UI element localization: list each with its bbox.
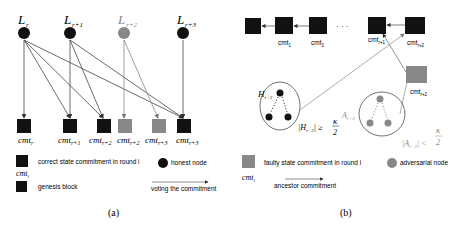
chain-block — [275, 17, 293, 34]
svg-text:faulty state commitment in rou: faulty state commitment in round i — [264, 159, 361, 167]
leader-node: L r+1 — [63, 12, 83, 39]
svg-text:κ: κ — [436, 125, 441, 135]
leader-node: L r — [17, 12, 30, 39]
svg-text:voting the commitment: voting the commitment — [151, 185, 217, 193]
ellipsis: · · · — [336, 22, 348, 31]
svg-text:cmtr+3: cmtr+3 — [145, 135, 167, 146]
caption-b: (b) — [340, 207, 352, 219]
svg-text:cmtr+1: cmtr+1 — [58, 135, 80, 146]
svg-text:L: L — [17, 12, 25, 27]
leader-node: L r+2 — [117, 12, 137, 39]
svg-text:|Hr+2| ≥: |Hr+2| ≥ — [298, 123, 323, 133]
chain-block — [309, 17, 327, 34]
svg-text:cmtr+1: cmtr+1 — [368, 36, 386, 45]
chain-block — [405, 17, 425, 34]
legend-b: faulty state commitment in round i cmti … — [242, 155, 448, 189]
svg-text:correct state commitment in ro: correct state commitment in round i — [38, 158, 140, 165]
svg-text:adversarial node: adversarial node — [400, 159, 448, 166]
svg-text:ancestor commitment: ancestor commitment — [274, 182, 336, 189]
faulty-block-label: cmtr+2 — [410, 88, 428, 97]
commitment-blocks — [17, 119, 191, 133]
svg-text:2: 2 — [333, 128, 337, 137]
commitment-labels: cmtr cmtr+1 cmtr+2 cmtr+2 cmtr+3 cmtr+3 — [18, 135, 198, 146]
caption-a: (a) — [108, 207, 119, 219]
genesis-block — [245, 18, 261, 34]
svg-text:r: r — [26, 21, 29, 29]
panel-b: · · · cmt1 cmt2 cmtr+1 cmtr+2 cmtr+2 Hr+… — [242, 17, 448, 219]
faulty-block — [406, 66, 427, 83]
chain-labels: cmt1 cmt2 cmtr+1 cmtr+2 — [278, 36, 425, 48]
svg-text:genesis block: genesis block — [38, 183, 78, 191]
chain-block — [368, 17, 386, 34]
svg-text:cmtr+2: cmtr+2 — [117, 135, 139, 146]
svg-text:cmtr+3: cmtr+3 — [176, 135, 198, 146]
svg-text:2: 2 — [436, 138, 440, 147]
svg-text:L: L — [176, 12, 184, 27]
svg-text:cmt2: cmt2 — [311, 39, 324, 48]
svg-text:cmt1: cmt1 — [278, 39, 291, 48]
svg-text:Ar+2: Ar+2 — [341, 111, 355, 121]
panel-a: L r L r+1 L r+2 L r+3 cmtr — [16, 12, 217, 219]
svg-text:honest node: honest node — [171, 159, 207, 166]
svg-text:cmtr+2: cmtr+2 — [89, 135, 111, 146]
adversary-set: Ar+2 |Ar+2| < κ 2 — [341, 92, 442, 149]
svg-text:|Ar+2| <: |Ar+2| < — [402, 139, 427, 149]
svg-text:cmtr+2: cmtr+2 — [407, 39, 425, 48]
svg-text:r+1: r+1 — [72, 21, 83, 29]
diagram-canvas: L r L r+1 L r+2 L r+3 cmtr — [0, 0, 457, 237]
svg-text:cmti: cmti — [242, 173, 256, 183]
svg-text:κ: κ — [333, 116, 338, 126]
svg-text:L: L — [117, 12, 125, 27]
svg-text:r+3: r+3 — [185, 21, 196, 29]
svg-text:cmtr: cmtr — [18, 135, 34, 146]
legend-a: correct state commitment in round i cmti… — [16, 155, 217, 193]
svg-text:r+2: r+2 — [126, 21, 137, 29]
svg-text:cmti: cmti — [16, 169, 30, 179]
leader-node: L r+3 — [176, 12, 196, 39]
svg-text:L: L — [63, 12, 71, 27]
voting-edges — [24, 40, 183, 118]
